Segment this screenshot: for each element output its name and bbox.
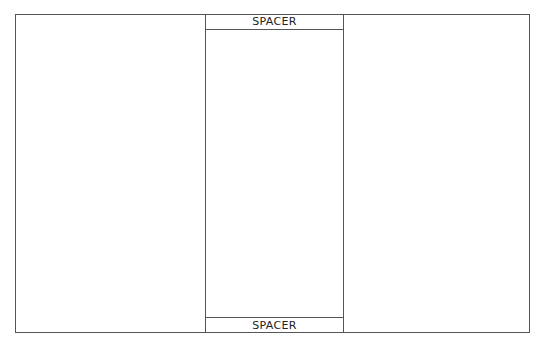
- right-panel: [344, 15, 529, 332]
- bottom-spacer: SPACER: [206, 317, 343, 333]
- center-column: SPACER SPACER: [205, 14, 344, 333]
- left-panel: [16, 15, 205, 332]
- center-content-area: [206, 30, 343, 317]
- layout-frame: SPACER SPACER: [15, 14, 530, 333]
- top-spacer: SPACER: [206, 14, 343, 30]
